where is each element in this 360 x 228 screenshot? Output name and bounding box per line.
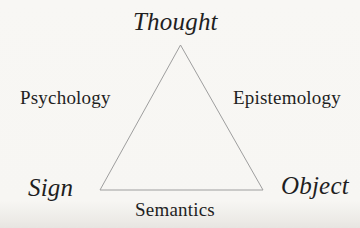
edge-label-epistemology: Epistemology — [233, 88, 341, 109]
vertex-label-sign: Sign — [28, 174, 73, 202]
vertex-label-thought: Thought — [133, 8, 218, 36]
vertex-label-object: Object — [281, 172, 349, 200]
triangle-shape — [100, 45, 263, 190]
edge-label-psychology: Psychology — [20, 88, 111, 109]
edge-label-semantics: Semantics — [135, 200, 215, 221]
semiotic-triangle-diagram: Thought Sign Object Psychology Epistemol… — [0, 0, 360, 228]
